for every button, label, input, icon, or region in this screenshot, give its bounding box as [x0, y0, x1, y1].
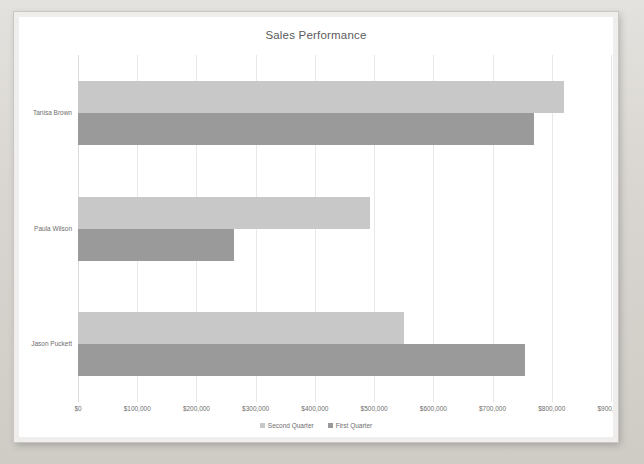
chart-title: Sales Performance: [19, 29, 613, 41]
legend-label: First Quarter: [336, 422, 372, 429]
bar-second-quarter[interactable]: [78, 81, 564, 113]
x-tick-label: $700,000: [479, 405, 506, 412]
legend-item[interactable]: First Quarter: [328, 422, 372, 429]
desktop-background: Sales Performance Jason PuckettPaula Wil…: [0, 0, 644, 464]
chart-legend: Second QuarterFirst Quarter: [19, 422, 613, 429]
chart-frame: Sales Performance Jason PuckettPaula Wil…: [14, 12, 618, 442]
category-label: Tanisa Brown: [33, 109, 72, 116]
bar-first-quarter[interactable]: [78, 113, 534, 145]
x-tick-label: $200,000: [183, 405, 210, 412]
gridline: [611, 55, 612, 402]
category-axis-labels: Jason PuckettPaula WilsonTanisa Brown: [19, 55, 76, 402]
x-axis-tick-labels: $0$100,000$200,000$300,000$400,000$500,0…: [78, 405, 611, 419]
x-tick-label: $900,000: [597, 405, 613, 412]
legend-swatch-icon: [328, 423, 333, 428]
x-tick-label: $0: [74, 405, 81, 412]
category-label: Paula Wilson: [34, 225, 72, 232]
bar-second-quarter[interactable]: [78, 312, 404, 344]
x-tick-label: $800,000: [538, 405, 565, 412]
x-tick-label: $300,000: [242, 405, 269, 412]
x-tick-label: $500,000: [361, 405, 388, 412]
bar-first-quarter[interactable]: [78, 344, 525, 376]
x-tick-label: $400,000: [301, 405, 328, 412]
plot-region: [78, 55, 611, 402]
legend-label: Second Quarter: [268, 422, 314, 429]
bar-group: [78, 197, 611, 261]
legend-swatch-icon: [260, 423, 265, 428]
x-tick-label: $100,000: [124, 405, 151, 412]
category-label: Jason Puckett: [31, 340, 72, 347]
bar-first-quarter[interactable]: [78, 229, 234, 261]
bar-second-quarter[interactable]: [78, 197, 370, 229]
bar-group: [78, 81, 611, 145]
bar-group: [78, 312, 611, 376]
chart-area[interactable]: Sales Performance Jason PuckettPaula Wil…: [19, 17, 613, 437]
x-tick-label: $600,000: [420, 405, 447, 412]
legend-item[interactable]: Second Quarter: [260, 422, 314, 429]
